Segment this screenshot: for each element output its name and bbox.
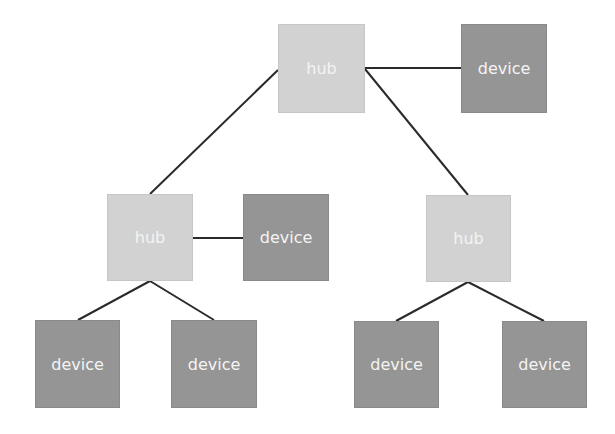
edge-hub_root-hub_right bbox=[365, 69, 468, 195]
node-label: hub bbox=[453, 229, 483, 248]
edge-hub_root-hub_left bbox=[150, 70, 278, 194]
hub-node: hub bbox=[278, 24, 365, 113]
device-node: device bbox=[461, 24, 547, 113]
device-node: device bbox=[502, 321, 587, 408]
node-label: device bbox=[260, 228, 313, 247]
device-node: device bbox=[35, 320, 120, 408]
node-label: device bbox=[51, 355, 104, 374]
node-label: device bbox=[518, 355, 571, 374]
edge-hub_right-dev_rl bbox=[396, 282, 468, 321]
edge-hub_left-dev_lr bbox=[150, 281, 214, 320]
node-label: hub bbox=[306, 59, 336, 78]
hub-node: hub bbox=[107, 194, 193, 281]
device-node: device bbox=[243, 194, 329, 281]
device-node: device bbox=[171, 320, 257, 408]
edge-hub_right-dev_rr bbox=[468, 282, 544, 321]
node-label: hub bbox=[135, 228, 165, 247]
node-label: device bbox=[478, 59, 531, 78]
node-label: device bbox=[370, 355, 423, 374]
device-node: device bbox=[354, 321, 439, 408]
hub-node: hub bbox=[426, 195, 511, 282]
edge-hub_left-dev_ll bbox=[78, 281, 150, 320]
node-label: device bbox=[188, 355, 241, 374]
